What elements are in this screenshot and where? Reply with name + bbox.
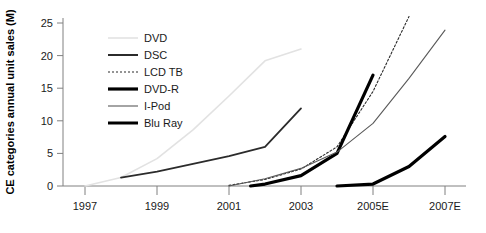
series-line-dvd	[85, 49, 301, 186]
x-axis-tick-label: 2001	[217, 200, 241, 212]
chart-tick-labels: 051015202519971999200120032005E2007E	[41, 17, 461, 212]
legend-label-dvd-r: DVD-R	[144, 83, 179, 95]
x-axis-tick-label: 2007E	[429, 200, 461, 212]
chart-series	[85, 16, 445, 186]
y-axis-tick-label: 25	[41, 17, 53, 29]
series-line-blu-ray	[337, 136, 445, 186]
legend-label-dvd: DVD	[144, 32, 167, 44]
x-axis-tick-label: 2003	[289, 200, 313, 212]
y-axis-title-text: CE categories annual unit sales (M)	[4, 9, 16, 195]
chart-legend: DVDDSCLCD TBDVD-RI-PodBlu Ray	[108, 32, 183, 129]
legend-label-lcd-tb: LCD TB	[144, 66, 183, 78]
y-axis-tick-label: 20	[41, 50, 53, 62]
x-axis-tick-label: 1997	[73, 200, 97, 212]
y-axis-tick-label: 15	[41, 82, 53, 94]
y-axis-tick-label: 0	[47, 180, 53, 192]
legend-label-blu-ray: Blu Ray	[144, 117, 183, 129]
x-axis-tick-label: 2005E	[357, 200, 389, 212]
x-axis-tick-label: 1999	[145, 200, 169, 212]
y-axis-tick-label: 10	[41, 115, 53, 127]
legend-label-i-pod: I-Pod	[144, 100, 170, 112]
y-axis-tick-label: 5	[47, 147, 53, 159]
series-line-dvd-r	[251, 75, 373, 186]
line-chart: 051015202519971999200120032005E2007E CE …	[0, 0, 486, 233]
legend-label-dsc: DSC	[144, 49, 167, 61]
chart-container: 051015202519971999200120032005E2007E CE …	[0, 0, 486, 233]
y-axis-title: CE categories annual unit sales (M)	[4, 9, 16, 195]
